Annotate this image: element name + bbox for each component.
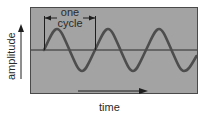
sine-wave-diagram: one cycle amplitude time	[0, 0, 210, 114]
x-axis-label: time	[99, 102, 120, 113]
one-cycle-label-line2: cycle	[50, 18, 90, 29]
diagram-canvas	[0, 0, 210, 114]
y-axis-label: amplitude	[6, 32, 17, 80]
amplitude-arrow-up-icon	[18, 24, 24, 32]
